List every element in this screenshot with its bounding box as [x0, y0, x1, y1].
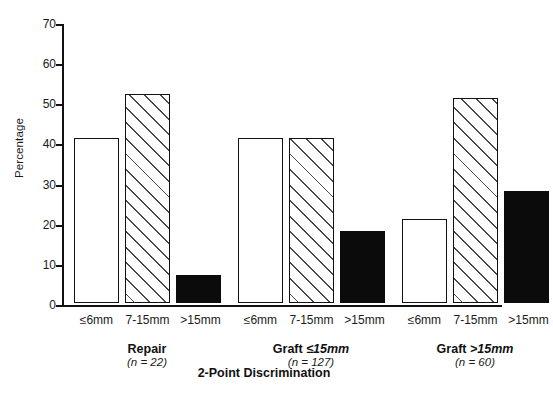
x-axis-title: 2-Point Discrimination	[0, 366, 528, 380]
group-name-graft-gt15mm: Graft >15mm	[415, 342, 535, 356]
y-tick-label-10: 10	[43, 259, 56, 271]
y-tick-label-60: 60	[43, 58, 56, 70]
bar-graft-gt15mm-gt15mm	[504, 191, 549, 303]
y-tick-label-0: 0	[49, 299, 56, 311]
y-tick-label-50: 50	[43, 98, 56, 110]
x-tick-label-graft-gt15mm-7-15mm: 7-15mm	[443, 314, 508, 326]
y-tick-label-70: 70	[43, 18, 56, 30]
y-tick-label-20: 20	[43, 219, 56, 231]
bar-graft-le15mm-gt15mm	[340, 231, 385, 303]
bar-graft-le15mm-7-15mm	[289, 138, 334, 303]
x-tick-label-graft-le15mm-7-15mm: 7-15mm	[279, 314, 344, 326]
y-axis-line	[62, 24, 64, 306]
bar-repair-le6mm	[74, 138, 119, 303]
plot-area: 0 10 20 30 40 50 60 70	[62, 24, 502, 305]
group-name-repair: Repair	[87, 342, 207, 356]
bar-graft-gt15mm-le6mm	[402, 219, 447, 303]
x-tick-label-graft-le15mm-gt15mm: >15mm	[336, 314, 393, 326]
bar-repair-7-15mm	[125, 94, 170, 303]
bar-graft-gt15mm-7-15mm	[453, 98, 498, 303]
y-axis-title: Percentage	[13, 93, 25, 203]
x-tick-label-repair-gt15mm: >15mm	[172, 314, 229, 326]
y-tick-label-30: 30	[43, 179, 56, 191]
x-tick-label-graft-gt15mm-gt15mm: >15mm	[500, 314, 553, 326]
bar-graft-le15mm-le6mm	[238, 138, 283, 303]
group-name-graft-le15mm: Graft ≤15mm	[251, 342, 371, 356]
x-tick-label-repair-7-15mm: 7-15mm	[115, 314, 180, 326]
x-axis-line	[62, 305, 502, 307]
y-tick-label-40: 40	[43, 138, 56, 150]
bar-repair-gt15mm	[176, 275, 221, 303]
